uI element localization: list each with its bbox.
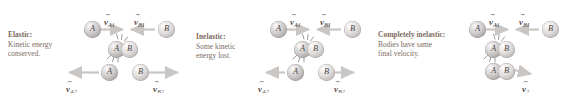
ball-b-after: B: [132, 64, 149, 81]
vector-label-vA2: vA2: [66, 79, 77, 93]
ball-a-before: A: [84, 21, 101, 38]
arrow-v2: [514, 70, 531, 74]
impact-mark-top: [303, 34, 314, 41]
ball-label: A: [107, 68, 112, 76]
ball-label: A: [114, 45, 119, 53]
ball-label: B: [504, 45, 509, 53]
ball-b-collision: B: [307, 41, 324, 58]
ball-label: A: [475, 25, 480, 33]
vector-label-vB1: vB1: [134, 12, 145, 28]
vector-label-vB2: vB2: [153, 79, 164, 93]
ball-b-after: B: [498, 63, 515, 80]
ball-b-collision: B: [121, 41, 138, 58]
ball-label: B: [164, 25, 169, 33]
ball-a-after: A: [287, 64, 304, 81]
vector-label-v2: v2: [522, 79, 529, 93]
ball-label: A: [491, 45, 496, 53]
ball-label: B: [548, 25, 553, 33]
ball-label: B: [313, 45, 318, 53]
vector-label-vA1: vA1: [489, 12, 500, 28]
vector-label-vB2: vB2: [334, 79, 345, 93]
impact-mark-top: [117, 34, 128, 41]
ball-b-before: B: [344, 21, 361, 38]
vector-label-vA1: vA1: [290, 12, 301, 28]
ball-a-before: A: [270, 21, 287, 38]
vector-label-vB1: vB1: [519, 12, 530, 28]
ball-label: B: [350, 25, 355, 33]
ball-b-before: B: [158, 21, 175, 38]
vector-label-vA1: vA1: [104, 12, 115, 28]
ball-label: A: [300, 45, 305, 53]
vector-label-vA2: vA2: [258, 79, 269, 93]
collision-types-figure: Elastic: Kinetic energy conserved.: [0, 0, 571, 93]
ball-label: A: [491, 67, 496, 75]
ball-b-before: B: [542, 21, 559, 38]
ball-a-before: A: [469, 21, 486, 38]
ball-label: B: [138, 68, 143, 76]
ball-label: A: [293, 68, 298, 76]
ball-b-after: B: [318, 64, 335, 81]
panel-completely-inelastic: Completely inelastic: Bodies have same f…: [372, 0, 571, 93]
vector-label-vB1: vB1: [320, 12, 331, 28]
panel-inelastic: Inelastic: Some kinetic energy lost.: [186, 0, 372, 93]
ball-b-collision: B: [498, 41, 515, 58]
impact-mark-top: [494, 34, 505, 41]
ball-label: A: [276, 25, 281, 33]
completely-inelastic-vectors: [372, 0, 571, 93]
ball-label: B: [504, 67, 509, 75]
ball-label: B: [127, 45, 132, 53]
panel-elastic: Elastic: Kinetic energy conserved.: [0, 0, 186, 93]
ball-a-after: A: [101, 64, 118, 81]
ball-label: A: [90, 25, 95, 33]
ball-label: B: [324, 68, 329, 76]
